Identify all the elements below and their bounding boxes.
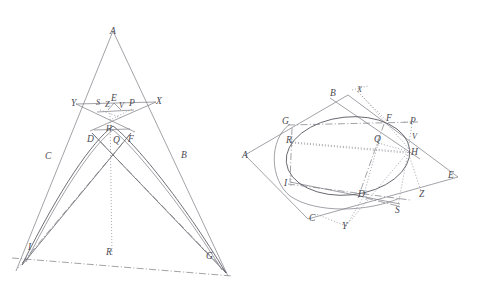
label-left-Z: Z [105,100,110,109]
label-left-F: F [127,134,134,144]
dotted-r-to-h [292,143,406,153]
label-left-B: B [181,150,187,160]
quad-side-b-e [348,95,458,177]
label-right-G: G [282,116,289,126]
baseline-i-g [12,258,232,276]
label-right-I: I [283,178,288,188]
label-right-P: P [409,116,416,126]
dotted-q-to-d [364,144,378,194]
quad-side-c-a [245,155,308,219]
chord-f-i [22,133,131,265]
dotted-y-to-d [346,196,364,226]
chord-i-d [288,184,410,200]
axis-h-q-r [110,113,112,256]
label-left-P: P [128,98,135,108]
label-left-D: D [86,134,94,144]
triangle-side-right [113,31,228,276]
quad2-side-bottom [290,182,400,204]
label-right-E: E [447,170,454,180]
chord-d-f [94,129,130,130]
quad-side-a-b [245,95,348,155]
label-left-C: C [45,151,52,161]
label-left-Y: Y [71,98,78,108]
label-right-C: C [309,213,316,223]
geometry-figure-canvas: A Y S Z E V P X H D Q F C B I R G [0,0,480,281]
dotted-r-q-h [292,142,408,152]
inscribed-ellipse [282,111,413,202]
label-left-X: X [155,96,163,106]
left-figure-group: A Y S Z E V P X H D Q F C B I R G [12,26,232,276]
label-left-S: S [96,98,100,107]
label-right-S: S [395,205,400,215]
label-right-H: H [410,147,419,157]
quad-side-e-c [308,177,458,219]
label-left-R: R [105,247,112,257]
label-right-D: D [357,189,365,199]
label-left-H: H [105,124,113,133]
label-right-Z: Z [419,189,425,199]
right-figure-group: B X G F P A R Q V H E I D Z S C Y [241,85,458,231]
label-left-Q: Q [113,135,120,145]
label-right-Q: Q [374,134,381,144]
label-left-E: E [110,93,117,103]
triangle-side-left [16,31,113,271]
label-left-V: V [119,101,125,110]
label-left-G: G [206,251,213,261]
label-right-R: R [285,135,292,145]
chord-g-f-p [288,122,418,125]
label-right-V: V [412,132,418,141]
dotted-h-to-z [408,152,421,191]
label-right-X: X [356,85,363,94]
label-left-A: A [109,26,116,36]
label-right-B: B [330,88,336,98]
label-right-F: F [385,113,392,123]
inscribed-conic-arc [22,126,226,273]
dashdot-d-s [366,198,398,206]
label-right-A: A [241,150,248,160]
